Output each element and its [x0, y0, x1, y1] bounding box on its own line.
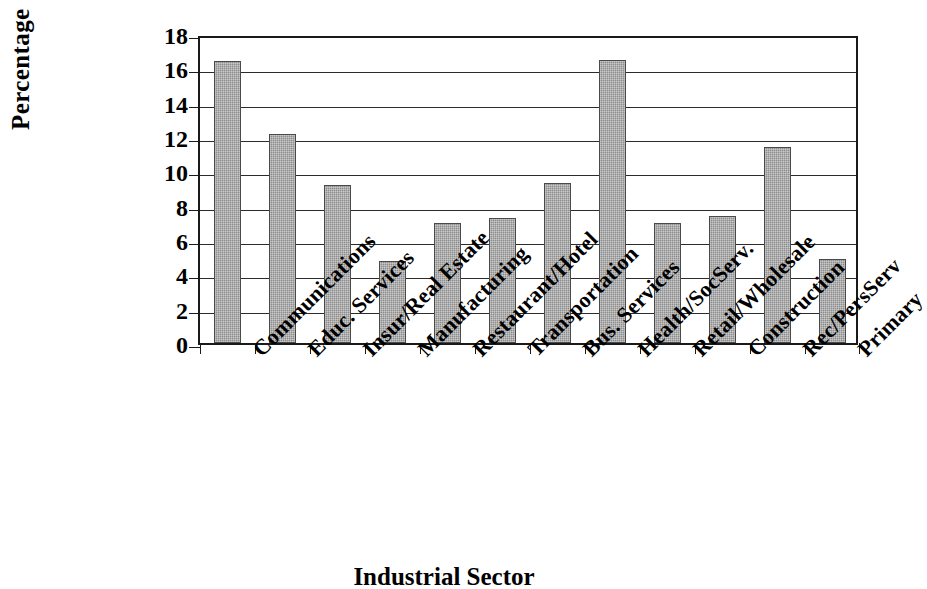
y-axis-tick-label: 10 — [120, 161, 188, 185]
y-axis-title: Percentage — [4, 0, 38, 130]
bar — [214, 61, 242, 343]
gridline — [200, 72, 856, 73]
x-axis-tick-label: Manufacturing — [414, 345, 430, 361]
y-axis-tick-label: 0 — [120, 333, 188, 357]
y-axis-tick-label: 8 — [120, 196, 188, 220]
x-axis-tick-label: Construction — [744, 345, 760, 361]
y-axis-tick-label: 2 — [120, 299, 188, 323]
y-axis-tick-label: 18 — [120, 24, 188, 48]
x-axis-title: Industrial Sector — [0, 563, 888, 589]
gridline — [200, 107, 856, 108]
y-axis-tick-mark — [189, 107, 200, 108]
y-axis-tick-mark — [189, 244, 200, 245]
y-axis-tick-mark — [189, 313, 200, 314]
y-axis-tick-mark — [189, 72, 200, 73]
gridline — [200, 175, 856, 176]
x-axis-tick-label: Retail/Wholesale — [689, 345, 705, 361]
y-axis-tick-label: 12 — [120, 127, 188, 151]
x-axis-tick-label: Bus. Services — [579, 345, 595, 361]
x-axis-tick-label: Communications — [249, 345, 265, 361]
y-axis-tick-mark — [189, 210, 200, 211]
x-axis-tick-label: Transportation — [524, 345, 540, 361]
x-axis-tick-label: Rec/PersServ — [799, 345, 815, 361]
x-axis-tick-label: Restaurant/Hotel — [469, 345, 485, 361]
x-axis-tick-label: Health/SocServ. — [634, 345, 650, 361]
gridline — [200, 210, 856, 211]
y-axis-tick-mark — [189, 38, 200, 39]
x-axis-tick-label: Insur/Real Estate — [359, 345, 375, 361]
y-axis-tick-mark — [189, 278, 200, 279]
gridline — [200, 141, 856, 142]
x-axis-tick-label: Primary — [854, 345, 870, 361]
y-axis-tick-label: 4 — [120, 264, 188, 288]
x-axis-tick-labels: CommunicationsEduc. ServicesInsur/Real E… — [198, 345, 858, 545]
y-axis-tick-label: 6 — [120, 230, 188, 254]
y-axis-tick-label: 16 — [120, 58, 188, 82]
y-axis-tick-mark — [189, 175, 200, 176]
y-axis-tick-labels: 181614121086420 — [120, 36, 188, 345]
gridline — [200, 244, 856, 245]
y-axis-tick-mark — [189, 141, 200, 142]
y-axis-tick-label: 14 — [120, 93, 188, 117]
x-axis-tick-label: Educ. Services — [304, 345, 320, 361]
